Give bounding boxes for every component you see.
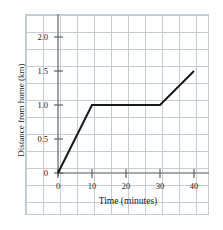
x-axis-title: Time (minutes) [58,196,198,206]
x-tick-label-40: 40 [184,182,204,191]
x-tick-label-0: 0 [48,182,68,191]
x-tick-label-30: 30 [150,182,170,191]
distance-time-graph-figure: 0 0.5 1.0 1.5 2.0 0 10 20 30 40 Distance… [0,0,223,230]
y-axis-title: Distance from home (km) [16,35,26,185]
x-tick-label-10: 10 [82,182,102,191]
data-series-line [58,71,194,173]
x-tick-label-20: 20 [116,182,136,191]
